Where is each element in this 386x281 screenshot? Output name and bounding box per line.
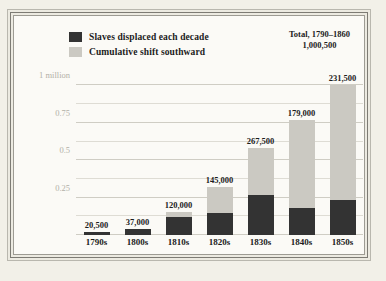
x-tick-label: 1830s (242, 237, 280, 247)
bar-value-label: 145,000 (206, 175, 234, 185)
chart-canvas: Slaves displaced each decade Cumulative … (13, 15, 365, 255)
bar-value-label: 120,000 (165, 200, 193, 210)
bar-value-label: 267,500 (247, 136, 275, 146)
legend-swatch-dark (69, 32, 82, 42)
x-tick-label: 1790s (78, 237, 116, 247)
bar-segment-decade (125, 229, 151, 235)
legend-label-cumulative: Cumulative shift southward (89, 47, 205, 57)
bar-segment-cumulative (330, 85, 356, 200)
bar-value-label: 231,500 (329, 73, 357, 83)
legend-swatch-light (69, 47, 82, 57)
bar-segment-decade (289, 208, 315, 235)
plot-area: 0.250.50.751 million 20,50037,000120,000… (76, 78, 363, 235)
x-tick-label: 1810s (160, 237, 198, 247)
bar-segment-decade (166, 217, 192, 235)
bar-segment-decade (207, 213, 233, 235)
x-tick-label: 1840s (283, 237, 321, 247)
total-annotation: Total, 1790–1860 1,000,500 (289, 29, 350, 52)
legend-item-cumulative: Cumulative shift southward (69, 45, 209, 58)
bar-stack (289, 120, 315, 235)
y-tick-label: 1 million (39, 70, 70, 80)
x-axis-labels: 1790s1800s1810s1820s1830s1840s1850s (76, 237, 363, 247)
chart-frame-outer: Slaves displaced each decade Cumulative … (7, 9, 371, 261)
bar-segment-decade (330, 200, 356, 235)
y-tick-label: 0.25 (55, 183, 70, 193)
y-tick-label: 0.5 (59, 145, 70, 155)
bar-stack (248, 148, 274, 235)
bar-segment-cumulative (289, 120, 315, 208)
bar-segment-cumulative (248, 148, 274, 195)
bar-value-label: 37,000 (126, 217, 149, 227)
bar-segment-cumulative (207, 187, 233, 213)
bar-column[interactable]: 179,000 (283, 78, 321, 235)
x-tick-label: 1800s (119, 237, 157, 247)
x-tick-label: 1820s (201, 237, 239, 247)
bar-stack (207, 187, 233, 235)
x-tick-label: 1850s (324, 237, 362, 247)
bar-column[interactable]: 231,500 (324, 78, 362, 235)
chart-frame-middle: Slaves displaced each decade Cumulative … (10, 12, 368, 258)
legend-label-displaced: Slaves displaced each decade (89, 32, 209, 42)
bar-column[interactable]: 37,000 (119, 78, 157, 235)
bar-stack (84, 232, 110, 235)
bar-stack (166, 212, 192, 235)
bar-stack (125, 229, 151, 235)
bar-column[interactable]: 120,000 (160, 78, 198, 235)
bar-segment-decade (248, 195, 274, 235)
bar-column[interactable]: 20,500 (78, 78, 116, 235)
legend-item-displaced: Slaves displaced each decade (69, 30, 209, 43)
bar-stack (330, 85, 356, 235)
total-annotation-line1: Total, 1790–1860 (289, 29, 350, 40)
bar-value-label: 179,000 (288, 108, 316, 118)
bar-group: 20,50037,000120,000145,000267,500179,000… (76, 78, 363, 235)
chart-legend: Slaves displaced each decade Cumulative … (69, 30, 209, 60)
y-tick-label: 0.75 (55, 108, 70, 118)
bar-value-label: 20,500 (85, 220, 108, 230)
bar-column[interactable]: 267,500 (242, 78, 280, 235)
total-annotation-line2: 1,000,500 (289, 40, 350, 51)
bar-column[interactable]: 145,000 (201, 78, 239, 235)
bar-segment-decade (84, 232, 110, 235)
